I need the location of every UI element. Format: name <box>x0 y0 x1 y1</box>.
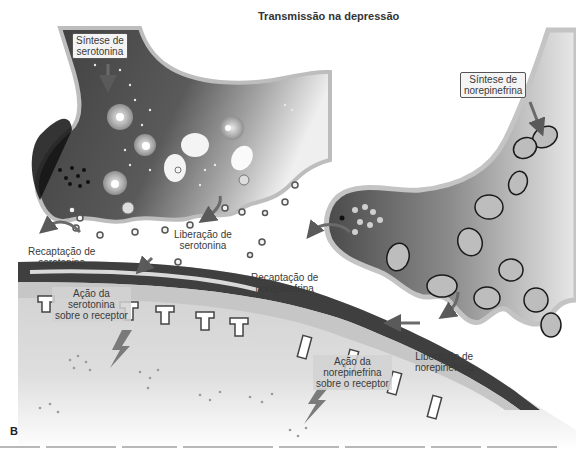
label-norepinephrine-synthesis: Síntese de norepinefrina <box>460 72 526 98</box>
cut-off-caption <box>0 446 576 450</box>
label-serotonin-action: Ação da serotonina sobre o receptor <box>52 287 131 322</box>
label-serotonin-synthesis: Síntese de serotonina <box>72 33 128 59</box>
norepinephrine-neuron-terminal <box>326 30 576 337</box>
label-norepinephrine-reuptake: Recaptação de norepinefrina <box>251 272 318 294</box>
label-norepinephrine-release: Liberação de norepinefrina <box>415 351 473 373</box>
label-norepinephrine-action: Ação da norepinefrina sobre o receptor <box>313 355 392 390</box>
panel-letter: B <box>10 425 18 437</box>
synapse-diagram <box>0 0 576 450</box>
label-serotonin-release: Liberação de serotonina <box>174 229 232 251</box>
figure-title: Transmissão na depressão <box>258 10 399 22</box>
label-serotonin-reuptake: Recaptação de serotonina <box>28 246 95 268</box>
